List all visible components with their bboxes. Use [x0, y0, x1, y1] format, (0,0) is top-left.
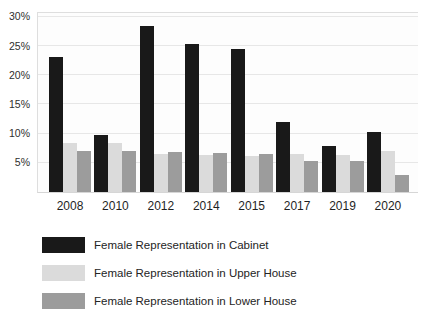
legend-label: Female Representation in Lower House — [94, 295, 297, 307]
y-tick-label: 5% — [0, 157, 30, 168]
bar-series1-2017 — [290, 154, 304, 192]
bar-series0-2019 — [322, 146, 336, 192]
legend-row-2: Female Representation in Lower House — [42, 293, 297, 309]
y-tick-label: 25% — [0, 41, 30, 52]
bar-series2-2012 — [168, 152, 182, 192]
bar-series2-2010 — [122, 151, 136, 192]
bar-series1-2014 — [199, 155, 213, 192]
bar-series0-2014 — [185, 44, 199, 192]
y-tick-label: 30% — [0, 11, 30, 22]
x-tick-label: 2020 — [375, 199, 402, 213]
bar-series1-2019 — [336, 155, 350, 192]
x-tick-label: 2008 — [57, 199, 84, 213]
y-axis: 30%25%20%15%10%5% — [0, 12, 32, 193]
bar-series2-2017 — [304, 161, 318, 193]
x-tick-label: 2014 — [193, 199, 220, 213]
bar-series2-2015 — [259, 154, 273, 193]
y-tick-label: 10% — [0, 128, 30, 139]
bar-group-2017: 2017 — [276, 13, 318, 192]
plot-area: 20082010201220142015201720192020 — [37, 12, 418, 193]
y-tick-label: 20% — [0, 70, 30, 81]
bar-group-2010: 2010 — [94, 13, 136, 192]
bar-series2-2019 — [350, 161, 364, 193]
bar-series0-2015 — [231, 49, 245, 192]
x-tick-label: 2010 — [102, 199, 129, 213]
legend-swatch — [42, 265, 85, 281]
bar-series2-2020 — [395, 175, 409, 192]
bar-group-2012: 2012 — [140, 13, 182, 192]
bar-series0-2010 — [94, 135, 108, 192]
bar-series1-2010 — [108, 143, 122, 192]
bar-series0-2012 — [140, 26, 154, 192]
bar-series2-2014 — [213, 153, 227, 192]
x-tick-label: 2012 — [147, 199, 174, 213]
bar-group-2015: 2015 — [231, 13, 273, 192]
bar-series1-2012 — [154, 154, 168, 192]
bar-series2-2008 — [77, 151, 91, 192]
legend-row-1: Female Representation in Upper House — [42, 265, 297, 281]
legend: Female Representation in CabinetFemale R… — [42, 237, 297, 309]
legend-swatch — [42, 293, 85, 309]
bar-series0-2008 — [49, 57, 63, 193]
bar-series1-2020 — [381, 151, 395, 193]
legend-label: Female Representation in Upper House — [94, 267, 297, 279]
x-tick-label: 2017 — [284, 199, 311, 213]
x-tick-label: 2019 — [329, 199, 356, 213]
bar-group-2014: 2014 — [185, 13, 227, 192]
legend-row-0: Female Representation in Cabinet — [42, 237, 297, 253]
female-representation-bar-chart: 30%25%20%15%10%5% 2008201020122014201520… — [0, 0, 428, 323]
legend-label: Female Representation in Cabinet — [94, 239, 269, 251]
bar-series1-2008 — [63, 143, 77, 192]
bar-group-2019: 2019 — [322, 13, 364, 192]
x-tick-label: 2015 — [238, 199, 265, 213]
bar-series0-2020 — [367, 132, 381, 192]
bar-series1-2015 — [245, 156, 259, 192]
legend-swatch — [42, 237, 85, 253]
bar-group-2008: 2008 — [49, 13, 91, 192]
bar-group-2020: 2020 — [367, 13, 409, 192]
bar-series0-2017 — [276, 122, 290, 192]
y-tick-label: 15% — [0, 99, 30, 110]
